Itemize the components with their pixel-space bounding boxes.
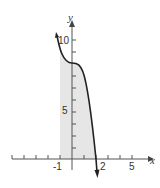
y-axis-label: y	[67, 11, 73, 23]
function-graph: x y -1 2 5 5 10	[0, 0, 160, 188]
x-tick-label-2: 2	[100, 161, 106, 172]
y-tick-label-5: 5	[62, 105, 68, 116]
curve-arrow-icon	[95, 170, 100, 179]
y-tick-label-10: 10	[58, 35, 70, 46]
x-tick-label-5: 5	[129, 161, 135, 172]
x-tick-label-neg1: -1	[53, 161, 62, 172]
x-axis-label: x	[149, 154, 155, 166]
